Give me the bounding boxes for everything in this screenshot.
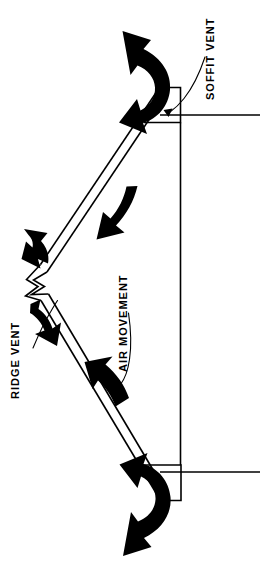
- air-movement-label: AIR MOVEMENT: [117, 274, 129, 372]
- diagram-canvas: SOFFIT VENT RIDGE VENT AIR MOVEMENT: [0, 0, 260, 587]
- attic-ventilation-diagram: SOFFIT VENT RIDGE VENT AIR MOVEMENT: [0, 0, 260, 587]
- ridge-vent-label: RIDGE VENT: [9, 322, 21, 399]
- soffit-vent-label: SOFFIT VENT: [204, 18, 216, 101]
